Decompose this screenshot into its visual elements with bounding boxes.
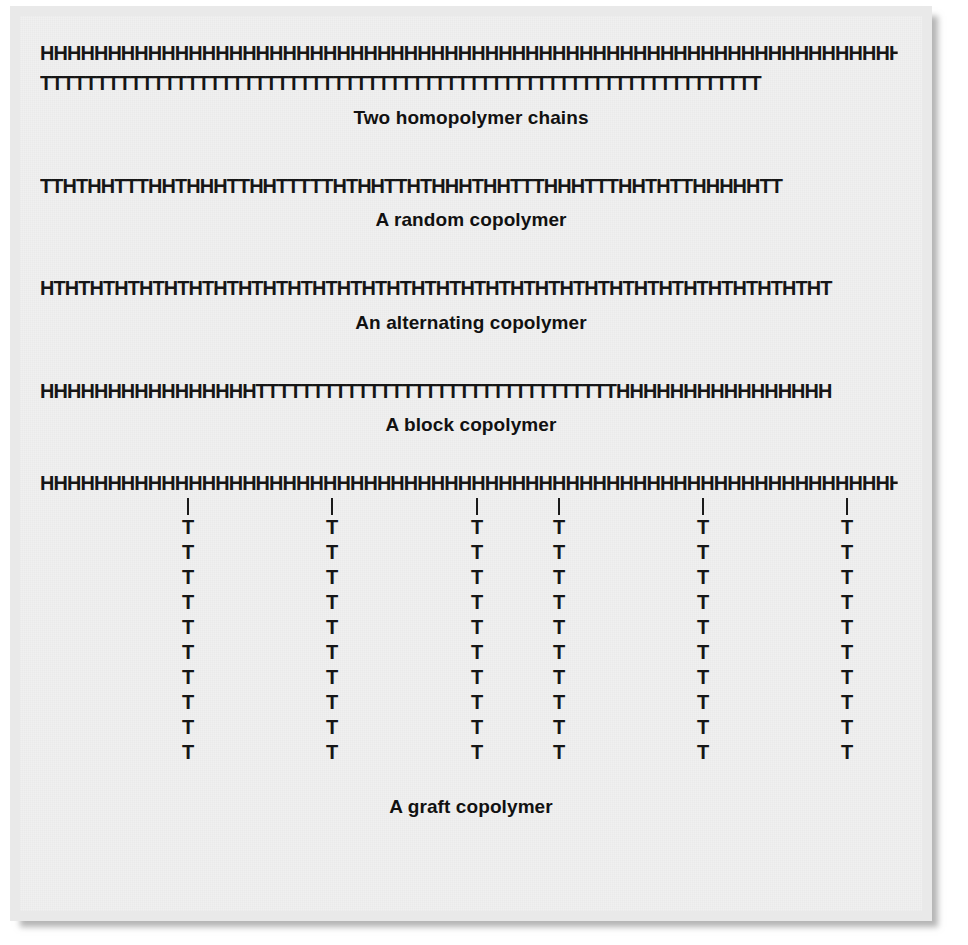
graft-branch-unit: T bbox=[469, 665, 485, 690]
graft-branch-unit: T bbox=[324, 515, 340, 540]
graft-branch-unit: T bbox=[839, 540, 855, 565]
graft-branch-unit: T bbox=[695, 590, 711, 615]
graft-branch-unit: T bbox=[324, 565, 340, 590]
graft-bond-line bbox=[558, 498, 560, 515]
graft-branch-unit: T bbox=[839, 665, 855, 690]
graft-branch-unit: T bbox=[839, 590, 855, 615]
graft-bond-line bbox=[187, 498, 189, 515]
chain-random: TTHTHHTTTHHTHHHTTHHTTTTTHTHHTTHTHHHTHHTT… bbox=[40, 171, 898, 201]
caption-graft: A graft copolymer bbox=[40, 796, 902, 818]
graft-branch-unit: T bbox=[180, 640, 196, 665]
graft-branch-unit: T bbox=[469, 640, 485, 665]
chain-graft-backbone: HHHHHHHHHHHHHHHHHHHHHHHHHHHHHHHHHHHHHHHH… bbox=[40, 468, 898, 498]
panel-block: HHHHHHHHHHHHHHHHTTTTTTTTTTTTTTTTTTTTTTTT… bbox=[40, 376, 902, 436]
graft-branch-unit: T bbox=[695, 515, 711, 540]
chain-homopolymer-t: TTTTTTTTTTTTTTTTTTTTTTTTTTTTTTTTTTTTTTTT… bbox=[40, 68, 898, 98]
graft-branch-unit: T bbox=[324, 540, 340, 565]
graft-branch-unit: T bbox=[839, 740, 855, 765]
graft-branch-unit: T bbox=[551, 665, 567, 690]
caption-random: A random copolymer bbox=[40, 209, 902, 231]
graft-branch-unit: T bbox=[180, 690, 196, 715]
graft-branch-unit: T bbox=[695, 715, 711, 740]
chain-homopolymer-h: HHHHHHHHHHHHHHHHHHHHHHHHHHHHHHHHHHHHHHHH… bbox=[40, 38, 898, 68]
graft-branch-unit: T bbox=[180, 615, 196, 640]
graft-branch-unit: T bbox=[695, 665, 711, 690]
graft-branch-unit: T bbox=[695, 690, 711, 715]
caption-block: A block copolymer bbox=[40, 414, 902, 436]
graft-branch-unit: T bbox=[180, 715, 196, 740]
graft-bond-line bbox=[476, 498, 478, 515]
graft-branch-unit: T bbox=[551, 515, 567, 540]
graft-branch-unit: T bbox=[839, 515, 855, 540]
figure-canvas: HHHHHHHHHHHHHHHHHHHHHHHHHHHHHHHHHHHHHHHH… bbox=[20, 16, 922, 911]
graft-branch-unit: T bbox=[180, 590, 196, 615]
graft-branch-unit: T bbox=[551, 640, 567, 665]
graft-branch-unit: T bbox=[469, 615, 485, 640]
graft-bond-line bbox=[702, 498, 704, 515]
graft-branch-unit: T bbox=[324, 615, 340, 640]
chain-alternating: HTHTHTHTHTHTHTHTHTHTHTHTHTHTHTHTHTHTHTHT… bbox=[40, 273, 898, 303]
graft-branch-unit: T bbox=[469, 715, 485, 740]
graft-branch-unit: T bbox=[695, 640, 711, 665]
graft-branch-unit: T bbox=[551, 715, 567, 740]
graft-branch-unit: T bbox=[324, 740, 340, 765]
graft-branch-unit: T bbox=[469, 565, 485, 590]
graft-branch-unit: T bbox=[180, 665, 196, 690]
panel-random: TTHTHHTTTHHTHHHTTHHTTTTTHTHHTTHTHHHTHHTT… bbox=[40, 171, 902, 231]
graft-branch-unit: T bbox=[469, 740, 485, 765]
figure-frame: HHHHHHHHHHHHHHHHHHHHHHHHHHHHHHHHHHHHHHHH… bbox=[10, 6, 932, 921]
panel-homopolymer: HHHHHHHHHHHHHHHHHHHHHHHHHHHHHHHHHHHHHHHH… bbox=[40, 38, 902, 129]
graft-branch-unit: T bbox=[695, 565, 711, 590]
graft-branch: TTTTTTTTTT bbox=[469, 498, 485, 765]
graft-branch-unit: T bbox=[695, 615, 711, 640]
graft-branch: TTTTTTTTTT bbox=[839, 498, 855, 765]
graft-branch-unit: T bbox=[469, 515, 485, 540]
graft-branch: TTTTTTTTTT bbox=[551, 498, 567, 765]
graft-bond-line bbox=[846, 498, 848, 515]
graft-branch-unit: T bbox=[469, 590, 485, 615]
graft-branch-unit: T bbox=[551, 590, 567, 615]
panel-graft: HHHHHHHHHHHHHHHHHHHHHHHHHHHHHHHHHHHHHHHH… bbox=[40, 468, 902, 818]
caption-alternating: An alternating copolymer bbox=[40, 312, 902, 334]
graft-branch-unit: T bbox=[551, 740, 567, 765]
graft-branch-unit: T bbox=[551, 540, 567, 565]
graft-branch-unit: T bbox=[180, 740, 196, 765]
graft-bond-line bbox=[331, 498, 333, 515]
graft-branch: TTTTTTTTTT bbox=[324, 498, 340, 765]
graft-branch-container: TTTTTTTTTTTTTTTTTTTTTTTTTTTTTTTTTTTTTTTT… bbox=[40, 498, 902, 790]
graft-branch-unit: T bbox=[469, 540, 485, 565]
graft-branch-unit: T bbox=[324, 715, 340, 740]
panel-alternating: HTHTHTHTHTHTHTHTHTHTHTHTHTHTHTHTHTHTHTHT… bbox=[40, 273, 902, 333]
graft-branch-unit: T bbox=[324, 590, 340, 615]
graft-branch-unit: T bbox=[180, 565, 196, 590]
graft-branch-unit: T bbox=[695, 540, 711, 565]
graft-branch-unit: T bbox=[839, 690, 855, 715]
graft-branch-unit: T bbox=[551, 690, 567, 715]
graft-branch-unit: T bbox=[839, 615, 855, 640]
graft-branch-unit: T bbox=[551, 615, 567, 640]
graft-branch-unit: T bbox=[839, 640, 855, 665]
graft-branch-unit: T bbox=[324, 690, 340, 715]
graft-branch-unit: T bbox=[324, 640, 340, 665]
chain-block: HHHHHHHHHHHHHHHHTTTTTTTTTTTTTTTTTTTTTTTT… bbox=[40, 376, 898, 406]
graft-branch-unit: T bbox=[469, 690, 485, 715]
graft-branch-unit: T bbox=[551, 565, 567, 590]
graft-branch-unit: T bbox=[180, 515, 196, 540]
graft-branch-unit: T bbox=[180, 540, 196, 565]
graft-branch: TTTTTTTTTT bbox=[180, 498, 196, 765]
graft-branch: TTTTTTTTTT bbox=[695, 498, 711, 765]
graft-branch-unit: T bbox=[695, 740, 711, 765]
graft-branch-unit: T bbox=[324, 665, 340, 690]
graft-branch-unit: T bbox=[839, 715, 855, 740]
caption-homopolymer: Two homopolymer chains bbox=[40, 107, 902, 129]
graft-branch-unit: T bbox=[839, 565, 855, 590]
